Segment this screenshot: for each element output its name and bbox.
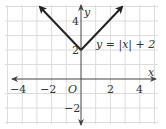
y-tick-4: 4 [72,15,79,28]
x-tick-neg4: −4 [10,83,26,96]
equation-label: y = |x| + 2 [95,38,155,52]
x-tick-2: 2 [107,83,114,96]
x-tick-neg2: −2 [40,83,56,96]
graph: x y O y = |x| + 2 −4 −2 2 4 4 2 −2 [0,0,166,129]
y-tick-2: 2 [72,44,79,57]
y-axis-label: y [83,6,91,19]
x-tick-4: 4 [136,83,143,96]
x-axis-label: x [148,66,155,79]
y-tick-neg2: −2 [64,102,80,115]
origin-label: O [68,83,77,96]
